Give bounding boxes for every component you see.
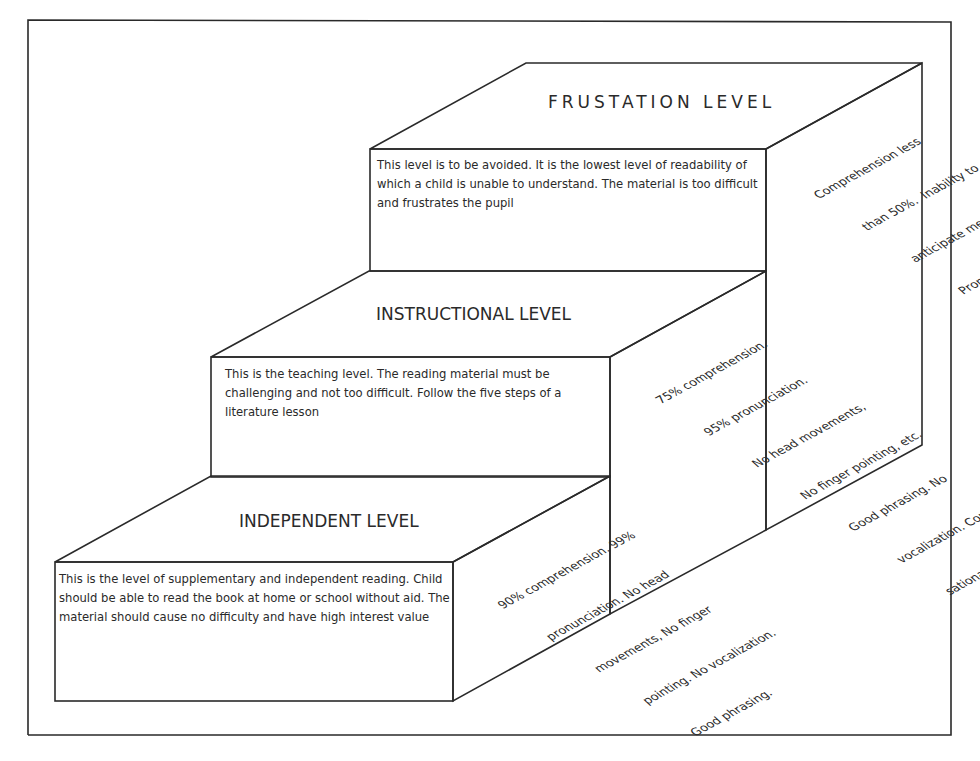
frustration-level-title: FRUSTATION LEVEL: [548, 92, 775, 112]
independent-level-title: INDEPENDENT LEVEL: [239, 511, 419, 531]
instructional-level-title: INSTRUCTIONAL LEVEL: [376, 304, 571, 324]
frustration-description: This level is to be avoided. It is the l…: [377, 156, 762, 213]
instructional-description: This is the teaching level. The reading …: [225, 365, 600, 422]
independent-description: This is the level of supplementary and i…: [59, 570, 451, 627]
